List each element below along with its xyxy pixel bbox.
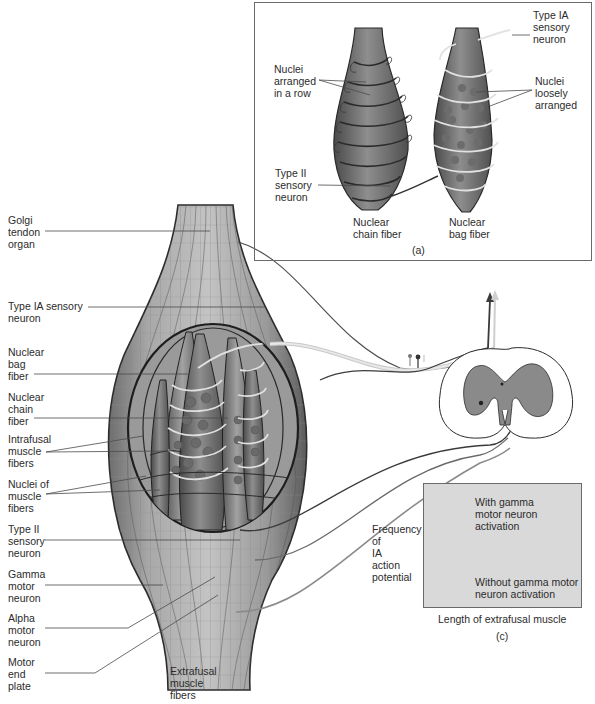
label-type-ii-sensory-neuron: Type II sensory neuron (8, 523, 45, 559)
spinal-cord-cross-section (439, 348, 572, 439)
label-motor-end-plate: Motor end plate (8, 656, 35, 692)
label-nuclei-arranged-row: Nuclei arranged in a row (274, 63, 316, 99)
label-with-gamma: With gamma motor neuron activation (475, 496, 537, 532)
panel-c-xlabel: Length of extrafusal muscle (438, 613, 566, 625)
dorsal-root-ganglion-markers (408, 354, 424, 368)
label-type-ia-sensory-neuron-a: Type IA sensory neuron (533, 9, 570, 45)
label-intrafusal-muscle-fibers: Intrafusal muscle fibers (8, 433, 51, 469)
label-nuclear-bag-fiber-a: Nuclear bag fiber (449, 216, 490, 240)
label-golgi-tendon-organ: Golgi tendon organ (8, 214, 40, 250)
panel-c-caption: (c) (496, 630, 508, 642)
label-type-ii-sensory-neuron-a: Type II sensory neuron (275, 167, 312, 203)
label-extrafusal-muscle-fibers: Extrafusal muscle fibers (170, 665, 217, 701)
label-nuclei-of-muscle-fibers: Nuclei of muscle fibers (8, 478, 49, 514)
panel-a-caption: (a) (412, 244, 425, 256)
label-alpha-motor-neuron: Alpha motor neuron (8, 612, 41, 648)
ascending-arrows (486, 290, 499, 302)
label-nuclear-chain-fiber-a: Nuclear chain fiber (353, 216, 401, 240)
label-gamma-motor-neuron: Gamma motor neuron (8, 568, 45, 604)
label-nuclear-bag-fiber: Nuclear bag fiber (8, 346, 44, 382)
label-nuclear-chain-fiber: Nuclear chain fiber (8, 391, 44, 427)
label-type-ia-sensory-neuron: Type IA sensory neuron (8, 300, 83, 324)
muscle-spindle-capsule (128, 324, 300, 532)
label-nuclei-loosely-arranged: Nuclei loosely arranged (535, 75, 577, 111)
panel-c-ylabel: Frequency of IA action potential (372, 523, 422, 583)
label-without-gamma: Without gamma motor neuron activation (475, 576, 578, 600)
